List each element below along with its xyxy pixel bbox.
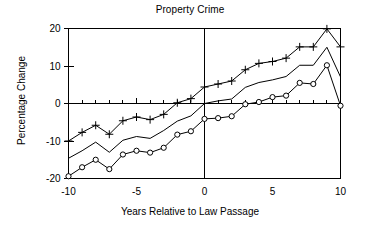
chart-figure: Property Crime Percentage Change Years R… (0, 0, 380, 230)
svg-text:20: 20 (49, 23, 61, 34)
svg-text:-20: -20 (46, 173, 61, 184)
svg-text:10: 10 (335, 186, 347, 197)
x-tick-labels: -10-50510 (61, 186, 346, 197)
plot-area: -20-1001020 -10-50510 (0, 0, 380, 230)
svg-text:0: 0 (202, 186, 208, 197)
svg-text:10: 10 (49, 61, 61, 72)
svg-text:-10: -10 (61, 186, 76, 197)
svg-text:-10: -10 (46, 136, 61, 147)
svg-text:0: 0 (55, 98, 61, 109)
y-tick-labels: -20-1001020 (46, 23, 61, 184)
svg-text:5: 5 (270, 186, 276, 197)
svg-text:-5: -5 (132, 186, 141, 197)
